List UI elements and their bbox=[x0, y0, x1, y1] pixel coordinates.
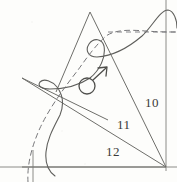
segment-12-label: 12 bbox=[106, 144, 120, 160]
figure-canvas bbox=[0, 0, 177, 182]
segment-10-label: 10 bbox=[145, 95, 159, 111]
ray-upper-left-line bbox=[56, 12, 90, 92]
mars-symbol bbox=[79, 67, 107, 94]
figure-container: 10 11 12 bbox=[0, 0, 177, 182]
segment-11-label: 11 bbox=[117, 117, 131, 133]
